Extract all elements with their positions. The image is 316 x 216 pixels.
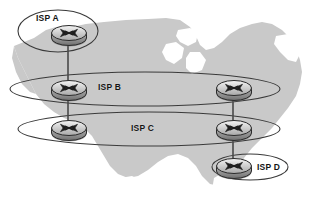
diagram-canvas: ISP A ISP B ISP C ISP D	[0, 0, 316, 216]
isp-c-label: ISP C	[131, 124, 154, 133]
router-isp-d[interactable]	[217, 159, 252, 180]
network-diagram	[0, 0, 316, 216]
router-isp-c-left[interactable]	[52, 121, 87, 142]
router-isp-b-right[interactable]	[217, 81, 252, 102]
router-isp-a[interactable]	[52, 26, 87, 47]
isp-a-label: ISP A	[36, 14, 59, 23]
isp-b-label: ISP B	[98, 83, 121, 92]
router-isp-b-left[interactable]	[52, 81, 87, 102]
router-isp-c-right[interactable]	[217, 121, 252, 142]
isp-d-label: ISP D	[257, 163, 280, 172]
